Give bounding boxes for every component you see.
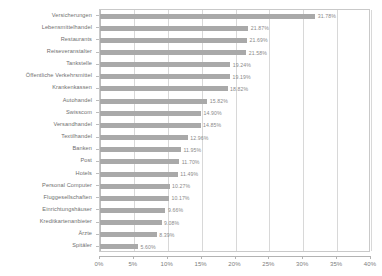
y-axis-label: Hotels (76, 168, 92, 179)
x-axis-tick-label: 10% (161, 261, 173, 267)
bar[interactable] (100, 86, 228, 91)
bar-value-label: 19.19% (233, 74, 251, 80)
x-axis-tick (167, 256, 168, 259)
bar[interactable] (100, 196, 169, 201)
y-axis-label: Lebensmittelhandel (42, 22, 92, 33)
x-axis-tick-label: 25% (262, 261, 274, 267)
bar-value-label: 9.08% (164, 220, 179, 226)
bar[interactable] (100, 184, 170, 189)
bar[interactable] (100, 159, 179, 164)
bar-value-label: 5.60% (140, 244, 155, 250)
bar-row[interactable]: 14.90% (100, 108, 222, 119)
bar-row[interactable]: 11.95% (100, 144, 201, 155)
plot-area: 31.78%21.87%21.69%21.58%19.24%19.19%18.8… (99, 9, 370, 252)
bar-row[interactable]: 15.82% (100, 96, 228, 107)
bar-row[interactable]: 31.78% (100, 11, 336, 22)
y-axis-label: Textilhandel (61, 131, 92, 142)
gridline-40 (371, 10, 372, 251)
y-axis-label: Swisscom (66, 107, 92, 118)
bar-row[interactable]: 12.96% (100, 132, 209, 143)
bar-value-label: 11.70% (182, 159, 200, 165)
y-axis-label: Personal Computer (42, 180, 92, 191)
bar[interactable] (100, 38, 247, 43)
bar-rows: 31.78%21.87%21.69%21.58%19.24%19.19%18.8… (100, 10, 369, 251)
y-axis-category-labels: VersicherungenLebensmittelhandelRestaura… (0, 9, 96, 252)
bar-value-label: 21.69% (249, 37, 267, 43)
bar[interactable] (100, 14, 315, 19)
bar-row[interactable]: 11.49% (100, 169, 198, 180)
bar[interactable] (100, 26, 248, 31)
y-axis-label: Restaurants (61, 34, 92, 45)
bar-value-label: 11.49% (180, 171, 198, 177)
bar-row[interactable]: 8.39% (100, 229, 175, 240)
bar-value-label: 21.58% (249, 50, 267, 56)
x-axis-tick (201, 256, 202, 259)
bar[interactable] (100, 111, 201, 116)
bar[interactable] (100, 220, 162, 225)
y-axis-label: Kreditkartenanbieter (40, 216, 92, 227)
bar-row[interactable]: 10.27% (100, 181, 190, 192)
bar[interactable] (100, 50, 246, 55)
bar-value-label: 10.27% (172, 183, 190, 189)
x-axis-tick-label: 20% (228, 261, 240, 267)
bar-row[interactable]: 21.87% (100, 23, 269, 34)
bar-row[interactable]: 9.66% (100, 205, 183, 216)
bar[interactable] (100, 147, 181, 152)
y-axis-label: Tankstelle (66, 58, 92, 69)
x-axis-tick-label: 15% (194, 261, 206, 267)
bar-value-label: 31.78% (318, 13, 336, 19)
bar-row[interactable]: 9.08% (100, 217, 179, 228)
x-axis-tick-label: 30% (296, 261, 308, 267)
y-axis-label: Einrichtungshäuser (42, 204, 92, 215)
bar-value-label: 14.85% (203, 122, 221, 128)
bar-value-label: 15.82% (210, 98, 228, 104)
x-axis-tick (302, 256, 303, 259)
bar[interactable] (100, 172, 178, 177)
bar-chart: VersicherungenLebensmittelhandelRestaura… (0, 0, 382, 276)
bar-row[interactable]: 11.70% (100, 156, 200, 167)
x-axis-tick (235, 256, 236, 259)
bar-row[interactable]: 21.69% (100, 35, 268, 46)
y-axis-label: Versandhandel (53, 119, 92, 130)
bar-value-label: 8.39% (159, 232, 174, 238)
x-axis-tick (99, 256, 100, 259)
bar-row[interactable]: 5.60% (100, 241, 156, 252)
bar-value-label: 10.17% (171, 195, 189, 201)
bar[interactable] (100, 123, 201, 128)
x-axis-tick-label: 35% (330, 261, 342, 267)
x-axis-tick (133, 256, 134, 259)
y-axis-label: Reiseveranstalter (47, 46, 92, 57)
y-axis-label: Post (80, 155, 92, 166)
bar[interactable] (100, 244, 138, 249)
bar[interactable] (100, 135, 188, 140)
bar-value-label: 19.24% (233, 62, 251, 68)
x-axis-tick-label: 5% (128, 261, 137, 267)
bar-value-label: 12.96% (190, 135, 208, 141)
bar-row[interactable]: 21.58% (100, 47, 267, 58)
y-axis-label: Banken (72, 143, 92, 154)
y-axis-label: Spitäler (72, 240, 92, 251)
bar-value-label: 9.66% (168, 207, 183, 213)
bar-row[interactable]: 19.24% (100, 59, 251, 70)
y-axis-label: Versicherungen (52, 10, 92, 21)
bar-row[interactable]: 10.17% (100, 193, 190, 204)
x-axis-tick (370, 256, 371, 259)
bar-row[interactable]: 18.82% (100, 83, 248, 94)
bar-row[interactable]: 14.85% (100, 120, 221, 131)
bar[interactable] (100, 232, 157, 237)
y-axis-label: Autohandel (63, 95, 92, 106)
bar-value-label: 18.82% (230, 86, 248, 92)
bar[interactable] (100, 62, 230, 67)
y-axis-label: Öffentliche Verkehrsmittel (26, 70, 92, 81)
bar[interactable] (100, 74, 230, 79)
x-axis-tick-label: 40% (364, 261, 376, 267)
bar[interactable] (100, 208, 165, 213)
bar-row[interactable]: 19.19% (100, 71, 251, 82)
x-axis-tick (336, 256, 337, 259)
bar[interactable] (100, 99, 207, 104)
y-axis-label: Ärzte (78, 228, 92, 239)
y-axis-label: Krankenkassen (52, 82, 92, 93)
bar-value-label: 11.95% (183, 147, 201, 153)
bar-value-label: 14.90% (203, 110, 221, 116)
x-axis-tick (268, 256, 269, 259)
